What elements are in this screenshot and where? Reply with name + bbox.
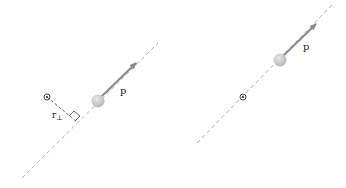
particle-ball <box>274 54 287 67</box>
particle-ball <box>92 95 105 108</box>
momentum-arrow <box>100 63 136 98</box>
momentum-arrow <box>282 24 316 57</box>
perp-distance-label: r⊥ <box>52 110 63 122</box>
line-of-motion <box>22 43 158 178</box>
momentum-label: p <box>303 41 309 52</box>
origin-icon <box>240 94 246 100</box>
right-panel: p <box>197 5 332 143</box>
angular-momentum-diagram: p r⊥ p <box>0 0 346 188</box>
origin-icon <box>44 94 50 100</box>
left-panel: p r⊥ <box>22 43 158 178</box>
line-of-motion <box>197 5 332 143</box>
momentum-label: p <box>120 85 126 96</box>
